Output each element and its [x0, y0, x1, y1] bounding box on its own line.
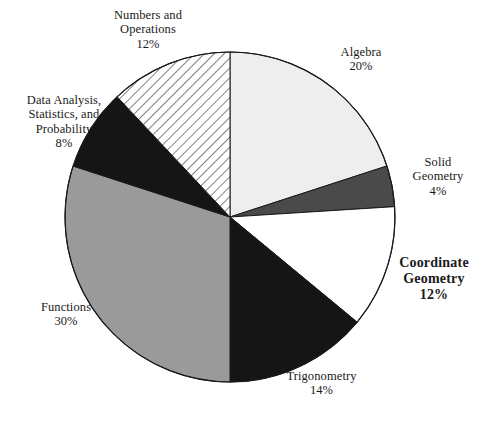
slice-label-line: Functions — [12, 300, 120, 314]
slice-percent: 12% — [73, 37, 223, 51]
slice-label-line: Geometry — [386, 169, 490, 183]
slice-label-functions: Functions 30% — [12, 300, 120, 329]
slice-label-line: Probability — [2, 122, 126, 136]
slice-percent: 30% — [12, 314, 120, 328]
slice-percent: 12% — [378, 287, 490, 303]
slice-percent: 14% — [259, 383, 384, 397]
slice-label-algebra: Algebra 20% — [300, 45, 422, 74]
slice-label-line: Statistics, and — [2, 107, 126, 121]
slice-label-line: Data Analysis, — [2, 93, 126, 107]
slice-label-line: Numbers and — [73, 8, 223, 22]
slice-percent: 4% — [386, 184, 490, 198]
slice-percent: 20% — [300, 59, 422, 73]
slice-percent: 8% — [2, 136, 126, 150]
slice-label-line: Operations — [73, 22, 223, 36]
slice-label-solid-geometry: Solid Geometry 4% — [386, 155, 490, 198]
slice-label-line: Coordinate — [378, 255, 490, 271]
slice-label-trigonometry: Trigonometry 14% — [259, 369, 384, 398]
slice-label-data-analysis: Data Analysis, Statistics, and Probabili… — [2, 93, 126, 150]
pie-chart: Numbers and Operations 12% Algebra 20% D… — [0, 0, 491, 423]
slice-label-line: Solid — [386, 155, 490, 169]
slice-label-line: Algebra — [300, 45, 422, 59]
slice-label-numbers-operations: Numbers and Operations 12% — [73, 8, 223, 51]
slice-label-line: Trigonometry — [259, 369, 384, 383]
slice-label-line: Geometry — [378, 271, 490, 287]
slice-label-coordinate-geometry: Coordinate Geometry 12% — [378, 255, 490, 303]
